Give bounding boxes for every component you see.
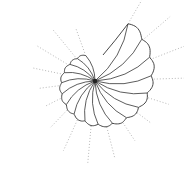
dotted-ray [76, 27, 85, 52]
dotted-ray [107, 127, 115, 157]
dotted-ray [130, 0, 142, 21]
dotted-ray [33, 68, 61, 74]
dotted-ray [36, 45, 67, 64]
dotted-ray [88, 126, 91, 163]
nautilus-drawing [0, 0, 184, 181]
dotted-ray [123, 123, 135, 141]
dotted-ray [45, 99, 61, 107]
dotted-ray [53, 29, 76, 56]
dotted-ray [137, 113, 151, 123]
dotted-ray [145, 17, 171, 39]
dotted-ray [148, 98, 169, 105]
dotted-rays [33, 0, 184, 162]
dotted-ray [50, 110, 67, 128]
dotted-ray [63, 120, 77, 151]
septum-line [62, 79, 95, 83]
spiral-center [93, 79, 97, 83]
dotted-ray [153, 45, 184, 58]
dotted-ray [39, 86, 58, 89]
nautilus-svg [0, 0, 184, 181]
dotted-ray [154, 78, 184, 79]
